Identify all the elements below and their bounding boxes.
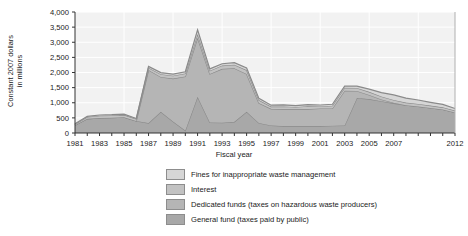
svg-text:1995: 1995 (238, 139, 255, 148)
svg-text:2001: 2001 (312, 139, 329, 148)
svg-text:1987: 1987 (140, 139, 157, 148)
svg-text:1,500: 1,500 (50, 83, 69, 92)
legend-item[interactable]: Dedicated funds (taxes on hazardous wast… (166, 197, 466, 211)
svg-text:1993: 1993 (214, 139, 231, 148)
legend-item[interactable]: General fund (taxes paid by public) (166, 212, 466, 226)
svg-text:4,000: 4,000 (50, 8, 69, 17)
x-axis-title-label: Fiscal year (216, 150, 253, 159)
svg-text:2,000: 2,000 (50, 68, 69, 77)
svg-text:2012: 2012 (447, 139, 464, 148)
legend-swatch-icon (166, 184, 185, 195)
svg-text:2003: 2003 (336, 139, 353, 148)
legend-swatch-icon (166, 169, 185, 180)
svg-text:1981: 1981 (67, 139, 84, 148)
svg-text:3,000: 3,000 (50, 38, 69, 47)
svg-text:1983: 1983 (91, 139, 108, 148)
legend-item-label: Interest (191, 185, 216, 194)
svg-text:1999: 1999 (287, 139, 304, 148)
legend-swatch-icon (166, 199, 185, 210)
legend-item-label: Fines for inappropriate waste management (191, 170, 335, 179)
x-axis-title: Fiscal year (0, 150, 468, 159)
legend-item[interactable]: Fines for inappropriate waste management (166, 167, 466, 181)
svg-text:2005: 2005 (361, 139, 378, 148)
svg-text:1985: 1985 (116, 139, 133, 148)
area-chart-plot: 05001,0001,5002,0002,5003,0003,5004,0001… (0, 0, 468, 160)
svg-text:1997: 1997 (263, 139, 280, 148)
legend-swatch-icon (166, 214, 185, 225)
legend-item-label: Dedicated funds (taxes on hazardous wast… (191, 200, 377, 209)
svg-text:2007: 2007 (385, 139, 402, 148)
legend-item[interactable]: Interest (166, 182, 466, 196)
svg-text:500: 500 (56, 114, 69, 123)
svg-text:2,500: 2,500 (50, 53, 69, 62)
legend-item-label: General fund (taxes paid by public) (191, 215, 309, 224)
svg-text:1989: 1989 (165, 139, 182, 148)
svg-text:1,000: 1,000 (50, 98, 69, 107)
svg-text:3,500: 3,500 (50, 23, 69, 32)
svg-text:1991: 1991 (189, 139, 206, 148)
svg-text:0: 0 (65, 129, 69, 138)
chart-figure: Constant 2007 dollars in millions 05001,… (0, 0, 468, 236)
chart-legend: Fines for inappropriate waste management… (166, 167, 466, 227)
